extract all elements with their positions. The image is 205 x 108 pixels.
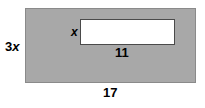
inner-height-label: x xyxy=(71,26,78,38)
outer-height-variable: x xyxy=(12,39,19,54)
outer-width-label: 17 xyxy=(103,86,117,99)
inner-width-label: 11 xyxy=(115,46,129,59)
geometry-figure: 3x x 11 17 xyxy=(0,0,205,108)
white-cutout-rectangle xyxy=(80,19,175,45)
outer-height-label: 3x xyxy=(5,40,19,53)
